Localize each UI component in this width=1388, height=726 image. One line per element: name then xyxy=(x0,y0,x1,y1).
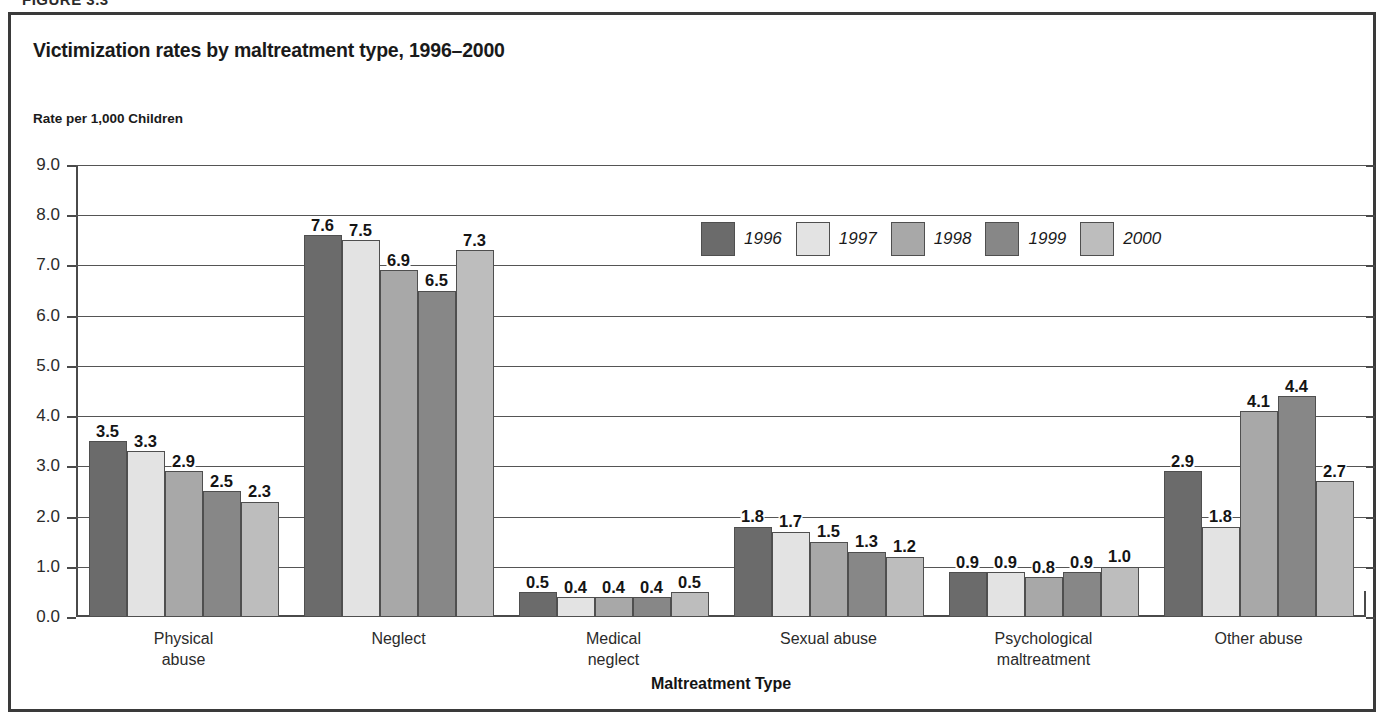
bar-value-label: 1.8 xyxy=(1208,508,1233,525)
axis-tick xyxy=(1366,366,1375,368)
bar[interactable]: 1.0 xyxy=(1101,567,1139,617)
y-axis-tick-label: 8.0 xyxy=(36,205,60,225)
bar[interactable]: 2.7 xyxy=(1316,481,1354,617)
axis-tick xyxy=(1366,316,1375,318)
y-axis-tick-label: 4.0 xyxy=(36,406,60,426)
y-axis-tick-label: 1.0 xyxy=(36,557,60,577)
bar[interactable]: 4.1 xyxy=(1240,411,1278,617)
x-axis-category-label: Psychological maltreatment xyxy=(995,629,1093,671)
bar-value-label: 0.9 xyxy=(955,554,980,571)
axis-tick xyxy=(1366,567,1375,569)
bar[interactable]: 7.6 xyxy=(304,235,342,617)
axis-tick xyxy=(1366,265,1375,267)
plot-area: 0.01.02.03.04.05.06.07.08.09.0 3.53.32.9… xyxy=(76,165,1366,617)
figure-header: FIGURE 3.3 xyxy=(22,0,109,5)
bar-value-label: 1.3 xyxy=(854,533,879,550)
axis-tick xyxy=(67,567,76,569)
bar[interactable]: 3.3 xyxy=(127,451,165,617)
axis-tick xyxy=(67,265,76,267)
bar[interactable]: 2.3 xyxy=(241,502,279,618)
bar-value-label: 2.3 xyxy=(247,483,272,500)
axis-tick xyxy=(67,466,76,468)
y-axis-tick-label: 5.0 xyxy=(36,356,60,376)
axis-tick xyxy=(67,366,76,368)
bar-value-label: 0.4 xyxy=(563,579,588,596)
x-axis-category-label: Physical abuse xyxy=(130,629,238,671)
bar-value-label: 2.5 xyxy=(209,473,234,490)
chart-title: Victimization rates by maltreatment type… xyxy=(33,39,505,62)
bar[interactable]: 0.9 xyxy=(987,572,1025,617)
bar[interactable]: 0.9 xyxy=(949,572,987,617)
bar[interactable]: 1.7 xyxy=(772,532,810,617)
bar-value-label: 0.8 xyxy=(1031,559,1056,576)
bar-value-label: 4.4 xyxy=(1284,378,1309,395)
axis-tick xyxy=(1366,517,1375,519)
bar-value-label: 1.5 xyxy=(816,523,841,540)
bar-value-label: 7.3 xyxy=(462,232,487,249)
figure-frame: Victimization rates by maltreatment type… xyxy=(8,12,1376,712)
axis-tick xyxy=(67,165,76,167)
x-axis-category-label: Sexual abuse xyxy=(780,629,877,650)
bar[interactable]: 0.4 xyxy=(557,597,595,617)
bar[interactable]: 1.5 xyxy=(810,542,848,617)
y-axis-tick-label: 2.0 xyxy=(36,507,60,527)
bar-group: 3.53.32.92.52.3Physical abuse xyxy=(76,165,291,617)
axis-tick xyxy=(1366,617,1375,619)
bar[interactable]: 2.9 xyxy=(165,471,203,617)
bar[interactable]: 7.5 xyxy=(342,240,380,617)
bar[interactable]: 6.9 xyxy=(380,270,418,617)
y-axis-tick-label: 6.0 xyxy=(36,306,60,326)
bar[interactable]: 2.9 xyxy=(1164,471,1202,617)
axis-tick xyxy=(67,416,76,418)
bar[interactable]: 3.5 xyxy=(89,441,127,617)
bar[interactable]: 1.8 xyxy=(1202,527,1240,617)
bar-value-label: 6.5 xyxy=(424,272,449,289)
bar-value-label: 1.8 xyxy=(740,508,765,525)
bar-value-label: 2.7 xyxy=(1322,463,1347,480)
bar-value-label: 0.4 xyxy=(639,579,664,596)
axis-tick xyxy=(67,215,76,217)
bar[interactable]: 1.2 xyxy=(886,557,924,617)
bar-value-label: 2.9 xyxy=(1170,453,1195,470)
bar-value-label: 1.7 xyxy=(778,513,803,530)
bar-group: 7.67.56.96.57.3Neglect xyxy=(291,165,506,617)
axis-tick xyxy=(1366,165,1375,167)
bar-value-label: 3.3 xyxy=(133,433,158,450)
bar-group: 1.81.71.51.31.2Sexual abuse xyxy=(721,165,936,617)
bar-value-label: 1.0 xyxy=(1107,548,1132,565)
bar-value-label: 4.1 xyxy=(1246,393,1271,410)
bar[interactable]: 0.5 xyxy=(671,592,709,617)
bar-value-label: 1.2 xyxy=(892,538,917,555)
bar[interactable]: 7.3 xyxy=(456,250,494,617)
bar-value-label: 6.9 xyxy=(386,252,411,269)
bar-value-label: 0.9 xyxy=(993,554,1018,571)
bar[interactable]: 2.5 xyxy=(203,491,241,617)
x-axis-title: Maltreatment Type xyxy=(76,675,1366,693)
bar[interactable]: 4.4 xyxy=(1278,396,1316,617)
bar[interactable]: 0.4 xyxy=(633,597,671,617)
bar-value-label: 0.5 xyxy=(677,574,702,591)
bar[interactable]: 1.3 xyxy=(848,552,886,617)
y-axis-tick-label: 9.0 xyxy=(36,155,60,175)
bar-value-label: 0.4 xyxy=(601,579,626,596)
bar-group: 2.91.84.14.42.7Other abuse xyxy=(1151,165,1366,617)
x-axis-category-label: Neglect xyxy=(371,629,425,650)
bar[interactable]: 6.5 xyxy=(418,291,456,617)
bar[interactable]: 0.5 xyxy=(519,592,557,617)
figure-root: FIGURE 3.3 Victimization rates by maltre… xyxy=(0,0,1388,726)
y-axis-tick-label: 7.0 xyxy=(36,255,60,275)
x-axis-category-label: Medical neglect xyxy=(560,629,668,671)
bar[interactable]: 0.8 xyxy=(1025,577,1063,617)
axis-tick xyxy=(1366,416,1375,418)
y-axis-tick-label: 3.0 xyxy=(36,456,60,476)
bar-value-label: 0.9 xyxy=(1069,554,1094,571)
bar-group: 0.90.90.80.91.0Psychological maltreatmen… xyxy=(936,165,1151,617)
axis-tick xyxy=(1366,466,1375,468)
bar-group: 0.50.40.40.40.5Medical neglect xyxy=(506,165,721,617)
bar[interactable]: 0.9 xyxy=(1063,572,1101,617)
y-axis-caption: Rate per 1,000 Children xyxy=(33,111,183,126)
axis-tick xyxy=(67,517,76,519)
bar[interactable]: 0.4 xyxy=(595,597,633,617)
axis-tick xyxy=(1366,215,1375,217)
bar[interactable]: 1.8 xyxy=(734,527,772,617)
